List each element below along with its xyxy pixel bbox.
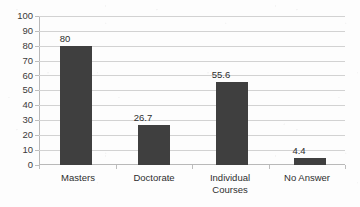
gridline [39,31,345,32]
bar-masters[interactable] [60,46,92,165]
y-tick-label: 30 [3,115,33,125]
y-tick-label: 100 [3,11,33,21]
y-tick-label: 40 [3,100,33,110]
y-tick-label: 70 [3,56,33,66]
y-tick-label: 60 [3,71,33,81]
bar-value-no-answer: 4.4 [279,145,319,156]
x-tick-mark [192,165,193,169]
gridline [39,16,345,17]
x-category-label-no-answer: No Answer [269,172,345,184]
y-tick-label: 80 [3,41,33,51]
y-tick-label: 20 [3,130,33,140]
bar-chart: 100 90 80 70 60 50 40 30 20 10 0 [0,0,360,207]
y-tick-label: 0 [3,160,33,170]
x-tick-mark [39,165,40,169]
bar-individual-courses[interactable] [216,82,248,165]
x-tick-mark [345,165,346,169]
x-category-label-individual-courses: Individual Courses [192,172,268,195]
bar-doctorate[interactable] [138,125,170,165]
bar-value-individual-courses: 55.6 [201,69,241,80]
bar-value-doctorate: 26.7 [123,112,163,123]
x-tick-mark [269,165,270,169]
y-tick-label: 50 [3,85,33,95]
x-category-label-doctorate: Doctorate [116,172,192,184]
bar-no-answer[interactable] [294,158,326,165]
x-tick-mark [116,165,117,169]
x-category-label-line2: Courses [192,184,268,196]
y-tick-label: 90 [3,26,33,36]
x-category-label-line1: Individual [192,172,268,184]
y-tick-label: 10 [3,145,33,155]
bar-value-masters: 80 [45,33,85,44]
x-category-label-masters: Masters [40,172,116,184]
y-axis-tick-labels: 100 90 80 70 60 50 40 30 20 10 0 [0,0,33,207]
